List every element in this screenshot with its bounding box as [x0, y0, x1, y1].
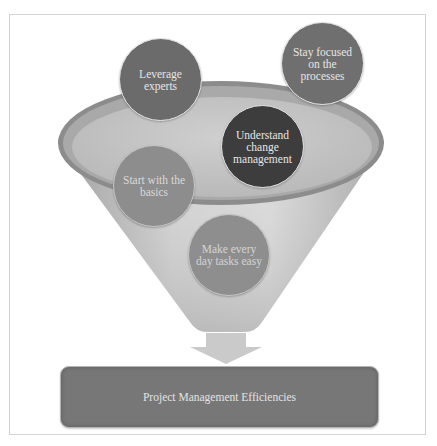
- circle-label: Stay focused on the processes: [282, 46, 363, 82]
- down-arrow-icon: [190, 333, 262, 364]
- input-circle-start-basics: Start with the basics: [113, 145, 195, 227]
- circle-label: Make every day tasks easy: [189, 243, 269, 267]
- input-circle-understand-change: Understand change management: [221, 105, 304, 188]
- output-box: Project Management Efficiencies: [60, 366, 379, 428]
- output-label: Project Management Efficiencies: [143, 391, 296, 403]
- input-circle-stay-focused: Stay focused on the processes: [281, 22, 364, 105]
- circle-label: Start with the basics: [114, 174, 194, 198]
- circle-label: Leverage experts: [120, 68, 201, 92]
- circle-label: Understand change management: [222, 129, 303, 165]
- input-circle-leverage-experts: Leverage experts: [119, 38, 202, 121]
- input-circle-make-tasks-easy: Make every day tasks easy: [188, 214, 270, 296]
